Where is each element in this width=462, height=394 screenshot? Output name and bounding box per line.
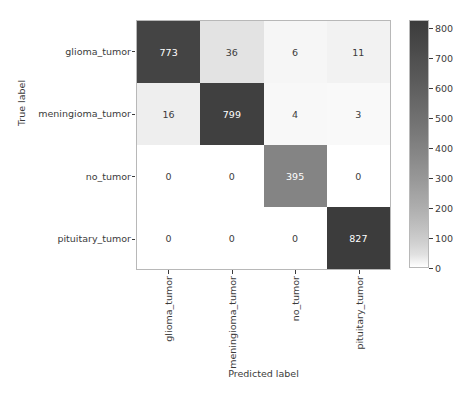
x-tick-mark <box>359 270 360 274</box>
colorbar-tick-mark <box>429 148 433 149</box>
y-tick-no_tumor: no_tumor <box>28 145 131 208</box>
colorbar-tick-label: 800 <box>435 23 453 34</box>
x-tick-glioma_tumor: glioma_tumor <box>136 270 200 380</box>
y-tick-mark <box>132 239 136 240</box>
colorbar-tick-label: 400 <box>435 143 453 154</box>
y-tick-mark <box>132 176 136 177</box>
matrix-cell-r0-c0: 773 <box>137 21 200 83</box>
x-tick-pituitary_tumor: pituitary_tumor <box>327 270 391 380</box>
confusion-matrix-grid: 773366111679943003950000827 <box>136 20 391 270</box>
confusion-matrix-figure: True label glioma_tumormeningioma_tumorn… <box>0 0 462 394</box>
colorbar-tick-mark <box>429 88 433 89</box>
y-axis-tick-labels: glioma_tumormeningioma_tumorno_tumorpitu… <box>28 20 131 270</box>
colorbar-tick-label: 200 <box>435 203 453 214</box>
matrix-cell-r0-c3: 11 <box>327 21 390 83</box>
matrix-cell-r3-c0: 0 <box>137 207 200 269</box>
matrix-cell-r1-c3: 3 <box>327 83 390 145</box>
y-tick-glioma_tumor: glioma_tumor <box>28 20 131 83</box>
x-tick-label: glioma_tumor <box>162 276 173 342</box>
x-tick-meningioma_tumor: meningioma_tumor <box>200 270 264 380</box>
x-tick-label: no_tumor <box>290 276 301 321</box>
colorbar-tick-mark <box>429 268 433 269</box>
y-tick-meningioma_tumor: meningioma_tumor <box>28 83 131 146</box>
matrix-cell-r2-c1: 0 <box>200 145 263 207</box>
colorbar: 0100200300400500600700800 <box>409 20 429 268</box>
matrix-cell-r2-c2: 395 <box>264 145 327 207</box>
x-tick-mark <box>168 270 169 274</box>
colorbar-tick-mark <box>429 28 433 29</box>
y-tick-label: no_tumor <box>86 171 131 182</box>
x-axis-title: Predicted label <box>136 368 391 379</box>
y-tick-pituitary_tumor: pituitary_tumor <box>28 208 131 271</box>
matrix-cell-r1-c2: 4 <box>264 83 327 145</box>
y-tick-mark <box>132 51 136 52</box>
matrix-cell-r1-c0: 16 <box>137 83 200 145</box>
colorbar-tick-label: 300 <box>435 173 453 184</box>
colorbar-tick-label: 0 <box>435 263 441 274</box>
matrix-cell-r1-c1: 799 <box>200 83 263 145</box>
matrix-cell-r2-c3: 0 <box>327 145 390 207</box>
x-axis-tick-labels: glioma_tumormeningioma_tumorno_tumorpitu… <box>136 270 391 380</box>
matrix-cell-r3-c1: 0 <box>200 207 263 269</box>
y-tick-label: meningioma_tumor <box>38 108 131 119</box>
colorbar-tick-mark <box>429 118 433 119</box>
x-tick-label: pituitary_tumor <box>354 276 365 350</box>
y-tick-label: glioma_tumor <box>65 46 131 57</box>
x-tick-mark <box>232 270 233 274</box>
colorbar-tick-mark <box>429 208 433 209</box>
matrix-cell-r3-c3: 827 <box>327 207 390 269</box>
y-tick-label: pituitary_tumor <box>57 233 131 244</box>
colorbar-tick-label: 500 <box>435 113 453 124</box>
matrix-cell-r3-c2: 0 <box>264 207 327 269</box>
matrix-cell-r0-c2: 6 <box>264 21 327 83</box>
colorbar-tick-label: 600 <box>435 83 453 94</box>
colorbar-tick-mark <box>429 238 433 239</box>
colorbar-tick-label: 100 <box>435 233 453 244</box>
colorbar-tick-mark <box>429 178 433 179</box>
x-tick-mark <box>295 270 296 274</box>
matrix-cell-r2-c0: 0 <box>137 145 200 207</box>
colorbar-tick-label: 700 <box>435 53 453 64</box>
x-tick-no_tumor: no_tumor <box>264 270 328 380</box>
colorbar-gradient <box>409 20 429 268</box>
x-tick-label: meningioma_tumor <box>226 276 237 369</box>
colorbar-tick-mark <box>429 58 433 59</box>
matrix-cell-r0-c1: 36 <box>200 21 263 83</box>
y-tick-mark <box>132 114 136 115</box>
